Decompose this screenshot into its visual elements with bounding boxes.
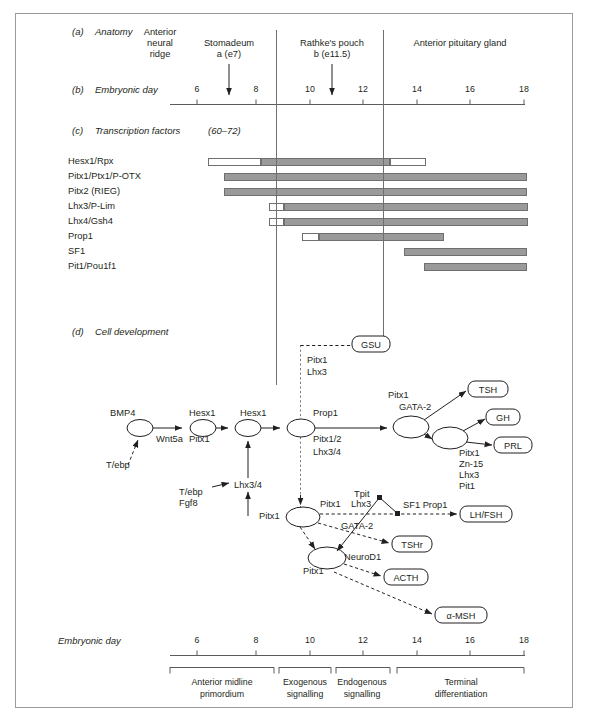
output-acth: ACTH (384, 569, 428, 585)
line-tpit-sf1 (380, 498, 398, 514)
output-lhfsh-label: LH/FSH (470, 510, 503, 520)
arrow-pcg-neurod1 (300, 527, 315, 549)
output-prl: PRL (494, 437, 532, 453)
pathway-label-lhx3-g: Lhx3 (307, 367, 327, 377)
output-amsh: α-MSH (435, 607, 487, 623)
arrow-node6-prl (466, 442, 492, 445)
arrow-pcg-tshr (318, 523, 389, 543)
arrow-tebp2-lhx34 (212, 483, 229, 487)
top-axis (170, 100, 525, 105)
output-tsh: TSH (468, 381, 508, 397)
output-tshr: TSHr (392, 536, 432, 552)
arrow-tpit-neurod1 (337, 498, 380, 552)
output-lhfsh: LH/FSH (460, 506, 512, 522)
cell-node-4 (287, 419, 315, 437)
cell-node-1 (127, 420, 153, 437)
diagram-vector-layer: GSU Pitx1 Lhx3 TSH GH PRL (0, 0, 589, 727)
bottom-axis (170, 651, 525, 656)
output-gh-label: GH (496, 413, 510, 423)
output-gsu-label: GSU (361, 340, 381, 350)
arrow-neurod1-acth (344, 564, 381, 576)
figure-canvas: (a) Anatomy Anterior neural ridge Stomad… (0, 0, 589, 727)
output-tshr-label: TSHr (401, 540, 422, 550)
cell-node-pcg (286, 507, 320, 527)
stage-brackets (170, 667, 524, 674)
arrow-node5-node6 (424, 434, 432, 439)
cell-node-neurod1 (308, 547, 346, 569)
cell-node-3 (235, 420, 261, 437)
output-acth-label: ACTH (393, 573, 418, 583)
arrow-tebp-node1 (128, 440, 138, 465)
cell-node-2 (190, 420, 216, 437)
output-gsu: GSU (352, 336, 390, 352)
output-tsh-label: TSH (479, 385, 497, 395)
arrow-node6-gh (463, 419, 485, 431)
cell-node-5 (393, 416, 429, 438)
cell-node-6 (432, 427, 468, 449)
output-amsh-label: α-MSH (447, 611, 476, 621)
output-prl-label: PRL (504, 441, 522, 451)
pathway-label-pitx1-g: Pitx1 (307, 355, 327, 365)
output-gh: GH (486, 409, 520, 425)
arrow-node5-tsh (424, 391, 466, 420)
